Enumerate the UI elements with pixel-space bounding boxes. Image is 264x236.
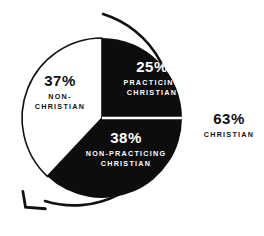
infographic-canvas: 25% PRACTICING CHRISTIAN 38% NON-PRACTIC… (0, 0, 264, 236)
slice-name-non-christian-line2: CHRISTIAN (22, 103, 98, 111)
annotation-percent-christian-total: 63% (213, 110, 245, 127)
slice-name-non-practicing-christian-line1: NON-PRACTICING (62, 150, 190, 158)
slice-percent-non-christian: 37% (44, 72, 76, 89)
slice-name-non-practicing-christian-line2: CHRISTIAN (62, 160, 190, 168)
slice-name-practicing-christian-line1: PRACTICING (104, 79, 200, 87)
annotation-name-christian-total: CHRISTIAN (196, 131, 262, 139)
slice-percent-non-practicing-christian: 38% (110, 129, 142, 146)
slice-label-practicing-christian: 25% PRACTICING CHRISTIAN (104, 58, 200, 97)
slice-name-non-christian-line1: NON- (22, 93, 98, 101)
slice-name-practicing-christian-line2: CHRISTIAN (104, 89, 200, 97)
slice-percent-practicing-christian: 25% (136, 58, 168, 75)
annotation-label-christian-total: 63% CHRISTIAN (196, 110, 262, 140)
slice-label-non-christian: 37% NON- CHRISTIAN (22, 72, 98, 111)
slice-label-non-practicing-christian: 38% NON-PRACTICING CHRISTIAN (62, 129, 190, 168)
